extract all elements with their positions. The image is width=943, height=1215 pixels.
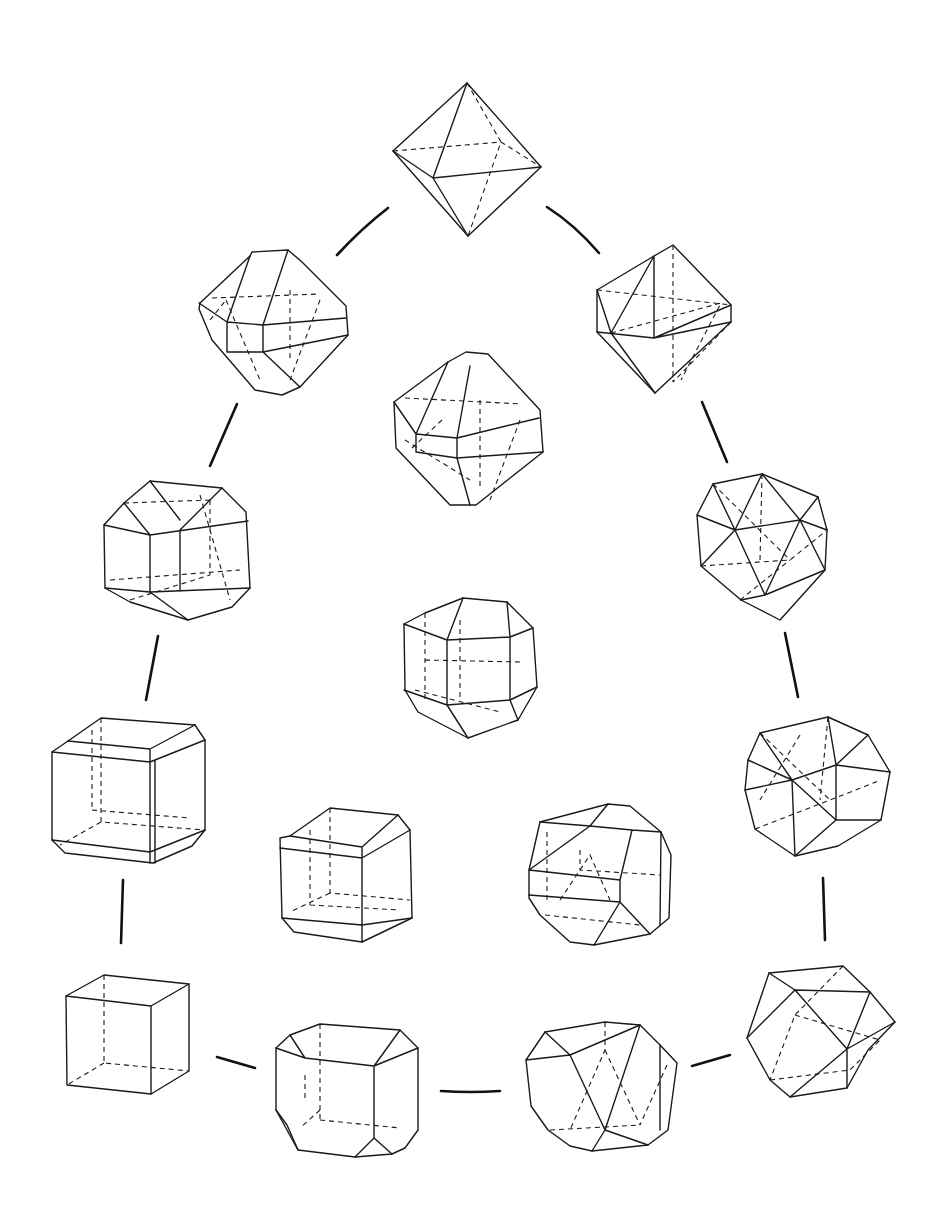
- center-upper-form-shape: [394, 352, 543, 505]
- cubo-octahedral-left-shape: [104, 481, 250, 620]
- cube-shape: [66, 975, 189, 1094]
- truncated-octahedron-left-shape: [199, 250, 348, 395]
- truncated-cube-bottom-shape: [276, 1024, 418, 1157]
- octahedron-shape: [393, 83, 541, 236]
- cuboctahedral-right-shape: [745, 717, 890, 856]
- truncated-form-bottom-shape: [526, 1022, 677, 1151]
- icosahedral-right-shape: [697, 474, 827, 620]
- truncated-cube-inner-left-shape: [280, 808, 412, 942]
- cuboctahedron-shape: [747, 966, 895, 1097]
- rounded-form-inner-right-shape: [529, 804, 671, 945]
- center-middle-form-shape: [404, 598, 537, 738]
- octahedron-cube-right-shape: [597, 245, 731, 393]
- polyhedra-diagram: [0, 0, 943, 1215]
- chamfered-cube-left-shape: [52, 718, 205, 863]
